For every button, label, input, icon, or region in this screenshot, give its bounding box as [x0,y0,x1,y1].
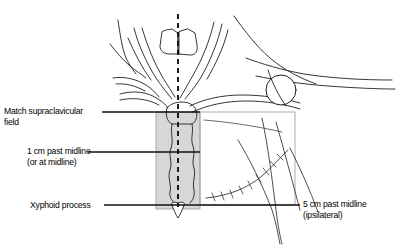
label-one-cm-past-midline: 1 cm past midline (or at midline) [27,146,90,167]
humeral-head [266,75,296,105]
label-five-cm-past-midline-line2: (ipsilateral) [303,210,366,221]
scar-suture-marks [212,154,283,201]
label-five-cm-past-midline-line1: 5 cm past midline [303,199,366,210]
larynx-thyroid-cartilage [160,29,178,54]
neck-contour-left [118,20,136,74]
shoulder-contour [246,58,392,80]
label-match-supraclavicular-line1: Match supraclavicular [4,106,83,117]
label-one-cm-past-midline-line1: 1 cm past midline [27,146,90,157]
mastectomy-scar [206,150,288,198]
label-one-cm-past-midline-line2: (or at midline) [27,157,90,168]
sternocleidomastoid-muscle-right [180,22,214,98]
lateral-tangent-field [200,112,295,205]
label-xyphoid-process: Xyphoid process [30,200,91,211]
breast-contour [262,118,282,244]
label-match-supraclavicular-line2: field [4,117,83,128]
label-match-supraclavicular: Match supraclavicular field [4,106,83,127]
label-five-cm-past-midline: 5 cm past midline (ipsilateral) [303,199,366,220]
label-xyphoid-process-line1: Xyphoid process [30,200,91,211]
